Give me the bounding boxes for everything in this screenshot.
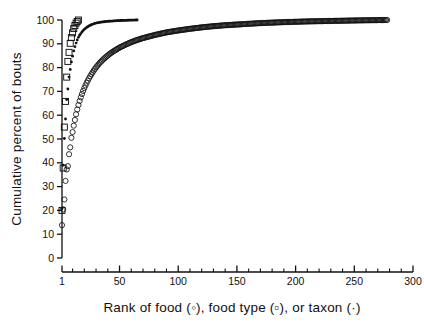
x-axis-title: Rank of food (◦), food type (▫), or taxo… bbox=[103, 300, 360, 315]
data-point-taxon bbox=[72, 50, 75, 53]
x-axis-tick-label: 300 bbox=[404, 275, 422, 287]
y-axis-tick-label: 0 bbox=[48, 252, 54, 264]
data-point-taxon bbox=[66, 88, 69, 91]
data-point-taxon bbox=[74, 45, 77, 48]
data-point-taxon bbox=[63, 137, 66, 140]
x-title-part-4: ) bbox=[356, 300, 361, 315]
data-point-taxon bbox=[61, 207, 64, 210]
x-title-part-3: ), or taxon ( bbox=[280, 300, 352, 315]
x-title-part-2: ), food type ( bbox=[196, 300, 275, 315]
y-axis-tick-label: 20 bbox=[42, 204, 54, 216]
x-axis-tick-label: 1 bbox=[59, 275, 65, 287]
y-axis-tick-label: 40 bbox=[42, 156, 54, 168]
y-axis-tick-label: 100 bbox=[36, 14, 54, 26]
data-point-taxon bbox=[64, 118, 67, 121]
x-axis-tick-label: 250 bbox=[346, 275, 364, 287]
y-axis-tick-label: 30 bbox=[42, 180, 54, 192]
y-axis-tick-label: 90 bbox=[42, 37, 54, 49]
data-point-taxon bbox=[70, 60, 73, 63]
x-axis-tick-label: 200 bbox=[287, 275, 305, 287]
x-axis-tick-label: 150 bbox=[228, 275, 246, 287]
data-point-taxon bbox=[71, 55, 74, 58]
cumulative-percent-chart: 0102030405060708090100 15010015020025030… bbox=[0, 0, 424, 325]
y-axis-title: Cumulative percent of bouts bbox=[9, 52, 24, 226]
data-point-taxon bbox=[75, 42, 78, 45]
data-point-taxon bbox=[65, 98, 68, 101]
y-axis-tick-label: 80 bbox=[42, 61, 54, 73]
data-point-taxon bbox=[68, 76, 71, 79]
y-axis-tick-label: 70 bbox=[42, 85, 54, 97]
x-axis-tick-label: 50 bbox=[114, 275, 126, 287]
x-axis-tick-label: 100 bbox=[169, 275, 187, 287]
y-axis-tick-label: 10 bbox=[42, 228, 54, 240]
y-axis-tick-label: 50 bbox=[42, 133, 54, 145]
data-point-taxon bbox=[136, 19, 139, 22]
y-axis-tick-label: 60 bbox=[42, 109, 54, 121]
chart-figure: 0102030405060708090100 15010015020025030… bbox=[0, 0, 424, 325]
data-point-taxon bbox=[76, 39, 79, 42]
x-title-part-1: Rank of food ( bbox=[103, 300, 191, 315]
data-point-taxon bbox=[69, 68, 72, 71]
data-point-taxon bbox=[62, 164, 65, 167]
